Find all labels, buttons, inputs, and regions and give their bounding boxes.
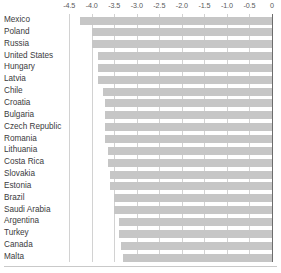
x-tick-label: -1.0 (221, 1, 233, 10)
bar (110, 182, 272, 190)
bar (119, 218, 272, 226)
category-label: United States (4, 50, 53, 62)
category-label: Russia (4, 38, 29, 50)
bar (119, 230, 272, 238)
category-label: Romania (4, 133, 37, 145)
bar (114, 206, 272, 214)
chart-row: Malta (0, 252, 281, 264)
bar (105, 123, 272, 131)
chart-row: Czech Republic (0, 121, 281, 133)
category-label: Czech Republic (4, 121, 61, 133)
x-tick-label: -2.5 (153, 1, 165, 10)
chart-row: Brazil (0, 192, 281, 204)
chart-row: Saudi Arabia (0, 204, 281, 216)
category-label: Mexico (4, 14, 30, 26)
chart-row: Latvia (0, 74, 281, 86)
category-label: Croatia (4, 97, 30, 109)
bar (105, 111, 272, 119)
x-tick-label: -3.5 (108, 1, 120, 10)
chart-row: Argentina (0, 216, 281, 228)
bar-rows: MexicoPolandRussiaUnited StatesHungaryLa… (0, 14, 281, 262)
category-label: Bulgaria (4, 109, 34, 121)
bar (108, 147, 272, 155)
bar (123, 254, 272, 262)
x-tick-label: -2.0 (176, 1, 188, 10)
category-label: Lithuania (4, 144, 37, 156)
category-label: Slovakia (4, 168, 35, 180)
category-label: Turkey (4, 227, 29, 239)
chart-row: Croatia (0, 97, 281, 109)
chart-row: Romania (0, 133, 281, 145)
chart-row: Bulgaria (0, 109, 281, 121)
chart-row: Estonia (0, 180, 281, 192)
x-tick-label: 0 (270, 1, 274, 10)
chart-row: Lithuania (0, 145, 281, 157)
bar (103, 88, 272, 96)
bar (92, 40, 272, 48)
bar (98, 52, 272, 60)
x-axis-tick-labels: -4.5-4.0-3.5-3.0-2.5-2.0-1.5-1.0-0.50 (0, 0, 281, 14)
category-label: Chile (4, 85, 23, 97)
category-label: Latvia (4, 73, 26, 85)
x-tick-label: -3.0 (131, 1, 143, 10)
category-label: Estonia (4, 180, 31, 192)
category-label: Argentina (4, 215, 39, 227)
category-label: Poland (4, 26, 30, 38)
category-label: Saudi Arabia (4, 204, 50, 216)
bar (114, 194, 272, 202)
x-tick-label: -0.5 (243, 1, 255, 10)
bottom-divider (4, 266, 277, 267)
chart-row: Costa Rica (0, 157, 281, 169)
horizontal-bar-chart: -4.5-4.0-3.5-3.0-2.5-2.0-1.5-1.0-0.50 Me… (0, 0, 281, 273)
chart-row: Mexico (0, 15, 281, 27)
x-tick-label: -1.5 (198, 1, 210, 10)
category-label: Brazil (4, 192, 24, 204)
chart-row: United States (0, 50, 281, 62)
category-label: Canada (4, 239, 33, 251)
plot-area: MexicoPolandRussiaUnited StatesHungaryLa… (0, 14, 281, 262)
bar (80, 17, 272, 25)
category-label: Hungary (4, 61, 35, 73)
x-tick-label: -4.5 (63, 1, 75, 10)
chart-row: Hungary (0, 62, 281, 74)
chart-row: Chile (0, 86, 281, 98)
chart-row: Turkey (0, 228, 281, 240)
bar (105, 99, 272, 107)
bar (92, 28, 272, 36)
bar (108, 159, 272, 167)
chart-row: Canada (0, 240, 281, 252)
bar (105, 135, 272, 143)
bar (110, 171, 272, 179)
bar (121, 242, 272, 250)
bar (98, 76, 272, 84)
chart-row: Poland (0, 26, 281, 38)
x-tick-label: -4.0 (86, 1, 98, 10)
chart-row: Russia (0, 38, 281, 50)
chart-row: Slovakia (0, 169, 281, 181)
category-label: Costa Rica (4, 156, 44, 168)
bar (98, 64, 272, 72)
category-label: Malta (4, 251, 24, 263)
